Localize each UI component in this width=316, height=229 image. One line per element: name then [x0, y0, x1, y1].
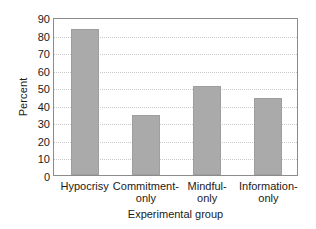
x-axis-tick-label-line2: only — [229, 192, 307, 204]
y-axis-tick-label: 80 — [2, 31, 50, 42]
x-axis-tick-label-line1: Mindful- — [188, 180, 227, 192]
y-axis-tick-label: 90 — [2, 14, 50, 25]
x-axis-tick-label-line1: Information- — [239, 180, 298, 192]
y-axis-tick-label: 50 — [2, 84, 50, 95]
x-axis-tick-label: Information-only — [229, 180, 307, 204]
y-axis-tick-label: 70 — [2, 49, 50, 60]
y-axis-tick-label: 40 — [2, 101, 50, 112]
y-axis-tick-label: 30 — [2, 119, 50, 130]
y-axis-tick-label: 10 — [2, 154, 50, 165]
bar — [193, 86, 221, 175]
plot-area: 0102030405060708090 HypocrisyCommitment-… — [53, 18, 298, 176]
bar — [71, 29, 99, 175]
plot-inner: 0102030405060708090 HypocrisyCommitment-… — [54, 19, 297, 175]
x-axis-tick-label-line1: Hypocrisy — [60, 180, 108, 192]
y-axis-tick-label: 20 — [2, 136, 50, 147]
bar-chart-figure: Percent 0102030405060708090 HypocrisyCom… — [0, 0, 316, 229]
bar — [254, 98, 282, 175]
bar — [132, 115, 160, 175]
y-axis-tick-label: 60 — [2, 66, 50, 77]
x-axis-title: Experimental group — [53, 208, 298, 221]
y-axis-tick-label: 0 — [2, 172, 50, 183]
